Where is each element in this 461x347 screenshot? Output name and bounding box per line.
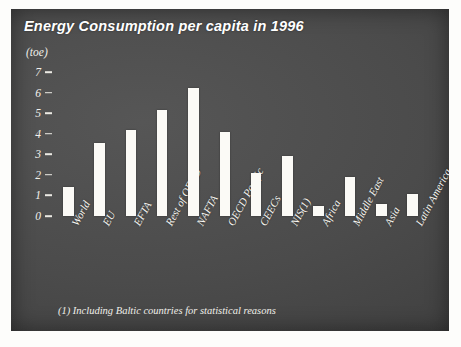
y-axis-tick-label: 3 xyxy=(25,148,41,160)
y-axis-tick-mark xyxy=(45,215,52,217)
y-axis-tick-label: 0 xyxy=(25,210,41,222)
bar xyxy=(94,143,105,216)
x-axis-category-label: Latin America xyxy=(413,166,449,227)
bar xyxy=(345,177,356,216)
y-axis-tick-label: 2 xyxy=(25,169,41,181)
chart-panel: Energy Consumption per capita in 1996 (t… xyxy=(11,9,449,331)
bar xyxy=(157,110,168,216)
y-axis-tick-mark xyxy=(45,154,52,156)
y-axis-tick-mark xyxy=(45,112,52,114)
chart-footnote: (1) Including Baltic countries for stati… xyxy=(58,305,276,316)
bar xyxy=(188,88,199,216)
y-axis-tick-mark xyxy=(45,133,52,135)
bar xyxy=(126,130,137,216)
x-axis-category-label: Africa xyxy=(319,198,343,228)
bar xyxy=(282,156,293,216)
bar xyxy=(63,187,74,216)
bar xyxy=(407,194,418,216)
y-axis-tick-label: 6 xyxy=(25,87,41,99)
bar xyxy=(251,173,262,216)
bar xyxy=(220,132,231,216)
y-axis-tick-label: 4 xyxy=(25,128,41,140)
y-axis-tick-label: 5 xyxy=(25,107,41,119)
plot-area: 01234567WorldEUEFTARest of OECDNAFTAOECD… xyxy=(11,9,449,331)
chart-figure: Energy Consumption per capita in 1996 (t… xyxy=(0,0,461,347)
y-axis-tick-mark xyxy=(45,195,52,197)
y-axis-tick-label: 7 xyxy=(25,66,41,78)
y-axis-tick-mark xyxy=(45,92,52,94)
y-axis-tick-mark xyxy=(45,71,52,73)
x-axis-category-label: Middle East xyxy=(350,175,386,228)
y-axis-tick-label: 1 xyxy=(25,189,41,201)
y-axis-tick-mark xyxy=(45,174,52,176)
